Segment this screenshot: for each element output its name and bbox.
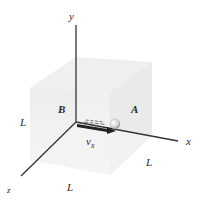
- edge-label-left: L: [19, 116, 26, 128]
- z-axis-label: z: [6, 185, 11, 195]
- edge-label-right: L: [145, 156, 152, 168]
- velocity-subscript: x: [90, 141, 95, 150]
- box-diagram: y x z B A L L L vx: [0, 0, 202, 202]
- cube: [30, 57, 152, 175]
- y-axis-label: y: [68, 10, 74, 22]
- particle-ball: [110, 119, 120, 129]
- x-axis-label: x: [185, 135, 191, 147]
- edge-label-bottom: L: [66, 181, 73, 193]
- wall-a-label: A: [130, 103, 138, 115]
- wall-b-label: B: [57, 103, 65, 115]
